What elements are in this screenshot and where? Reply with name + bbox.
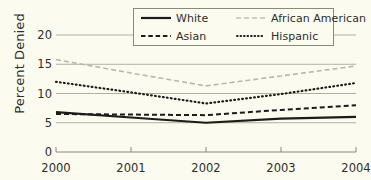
dashed-gray-line-icon [236,13,266,23]
chart-legend: White African American Asian [133,8,334,46]
legend-label-hispanic: Hispanic [271,30,318,43]
legend-item-hispanic: Hispanic [229,30,335,43]
series-line-african-american [56,60,356,86]
legend-item-african-american: African American [229,12,335,25]
legend-label-white: White [176,12,208,25]
legend-item-white: White [134,12,229,25]
legend-item-asian: Asian [134,30,229,43]
chart-container: Percent Denied 05101520 2000200120022003… [0,0,371,180]
legend-label-asian: Asian [176,30,206,43]
solid-line-icon [141,13,171,23]
series-line-asian [56,105,356,115]
dashed-line-icon [141,31,171,41]
dotted-line-icon [236,31,266,41]
legend-label-african-american: African American [271,12,366,25]
series-line-hispanic [56,82,356,104]
